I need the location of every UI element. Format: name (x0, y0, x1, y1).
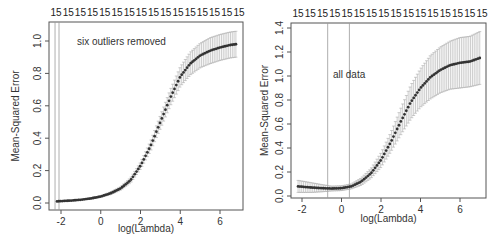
top-axis-label: 15 (366, 8, 378, 19)
y-axis-title: Mean-Squared Error (259, 64, 270, 156)
top-axis-label: 15 (87, 7, 99, 18)
y-tick-label: 0.4 (274, 141, 285, 155)
top-axis-label: 15 (209, 7, 221, 18)
left-cv-plot: -202460.00.20.40.60.81.01515151515151515… (10, 7, 245, 234)
x-tick-label: 0 (339, 204, 345, 215)
x-tick-label: 6 (457, 204, 463, 215)
cv-points (56, 43, 238, 203)
y-tick-label: 1.0 (32, 34, 43, 48)
top-axis-label: 15 (172, 7, 184, 18)
top-axis-label: 15 (221, 7, 233, 18)
y-tick-label: 0.2 (32, 163, 43, 177)
top-axis-label: 15 (391, 8, 403, 19)
y-tick-label: 1.2 (274, 45, 285, 59)
x-tick-label: 4 (418, 204, 424, 215)
top-axis-label: 15 (160, 7, 172, 18)
top-axis-label: 15 (440, 8, 452, 19)
top-axis-label: 15 (464, 8, 476, 19)
top-axis-label: 15 (233, 7, 245, 18)
y-axis-title: Mean-Squared Error (10, 70, 21, 162)
top-axis-label: 15 (427, 8, 439, 19)
right-cv-plot: -202460.00.20.40.60.81.01.21.41515151515… (259, 8, 488, 224)
plot-frame (291, 23, 486, 198)
top-axis-label: 15 (63, 7, 75, 18)
top-axis-label: 15 (305, 8, 317, 19)
y-tick-label: 1.4 (274, 21, 285, 35)
y-tick-label: 0.0 (32, 196, 43, 210)
y-tick-label: 0.8 (274, 93, 285, 107)
top-axis-label: 15 (476, 8, 488, 19)
error-bars (86, 31, 237, 199)
top-axis-label: 15 (292, 8, 304, 19)
y-tick-label: 0.6 (274, 117, 285, 131)
plot-annotation: six outliers removed (77, 36, 166, 47)
top-axis-label: 15 (99, 7, 111, 18)
x-axis-title: log(Lambda) (360, 213, 416, 224)
x-axis-title: log(Lambda) (118, 223, 174, 234)
x-tick-label: 6 (217, 216, 223, 227)
top-axis-label: 15 (197, 7, 209, 18)
top-axis-label: 15 (75, 7, 87, 18)
cv-points (297, 57, 482, 190)
x-tick-label: 4 (177, 216, 183, 227)
top-axis-label: 15 (111, 7, 123, 18)
x-tick-label: -2 (298, 204, 307, 215)
y-tick-label: 0.0 (274, 189, 285, 203)
y-tick-label: 0.4 (32, 131, 43, 145)
error-bars (297, 32, 482, 193)
x-tick-label: -2 (57, 216, 66, 227)
top-axis-label: 15 (317, 8, 329, 19)
top-axis-label: 15 (342, 8, 354, 19)
top-axis-label: 15 (403, 8, 415, 19)
top-axis-label: 15 (452, 8, 464, 19)
top-axis-label: 15 (124, 7, 136, 18)
y-tick-label: 0.2 (274, 165, 285, 179)
plot-annotation: all data (333, 69, 366, 80)
top-axis-label: 15 (415, 8, 427, 19)
y-tick-label: 0.6 (32, 98, 43, 112)
top-axis-label: 15 (329, 8, 341, 19)
y-tick-label: 0.8 (32, 66, 43, 80)
x-tick-label: 0 (98, 216, 104, 227)
top-axis-label: 15 (148, 7, 160, 18)
chart-canvas: -202460.00.20.40.60.81.01515151515151515… (0, 0, 502, 238)
top-axis-label: 15 (185, 7, 197, 18)
top-axis-label: 15 (354, 8, 366, 19)
y-tick-label: 1.0 (274, 69, 285, 83)
top-axis-label: 15 (378, 8, 390, 19)
top-axis-label: 15 (136, 7, 148, 18)
top-axis-label: 15 (50, 7, 62, 18)
